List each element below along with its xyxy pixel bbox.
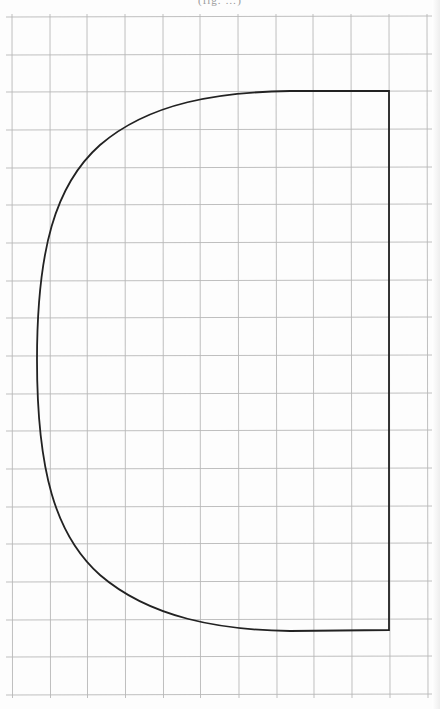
grid-line-vertical [351, 14, 352, 698]
grid-line-horizontal [6, 468, 433, 469]
grid-line-horizontal [6, 393, 433, 394]
grid-line-horizontal [6, 619, 433, 620]
grid-line-vertical [427, 14, 428, 698]
grid-line-vertical [200, 14, 201, 698]
grid-line-vertical [313, 14, 314, 698]
grid-line-horizontal [6, 543, 433, 544]
grid-line-horizontal [6, 430, 433, 431]
grid-line-horizontal [6, 581, 433, 582]
grid-line-horizontal [6, 656, 433, 657]
grid-line-horizontal [6, 317, 433, 318]
grid-line-vertical [238, 14, 239, 698]
scanned-page: (fig. …) [0, 0, 440, 709]
grid-line-horizontal [6, 204, 433, 205]
pattern-piece-outline [37, 91, 389, 631]
grid-line-horizontal [6, 355, 433, 356]
page-edge-shadow [432, 0, 440, 709]
grid-line-horizontal [6, 280, 433, 281]
grid-lines [6, 14, 433, 698]
grid-line-horizontal [6, 242, 433, 243]
grid-line-vertical [276, 14, 277, 698]
grid-drawing [0, 0, 440, 709]
grid-line-horizontal [6, 54, 433, 55]
grid-line-horizontal [6, 694, 433, 695]
grid-line-horizontal [6, 129, 433, 130]
grid-line-horizontal [6, 167, 433, 168]
grid-line-horizontal [6, 506, 433, 507]
grid-line-horizontal [6, 16, 433, 17]
